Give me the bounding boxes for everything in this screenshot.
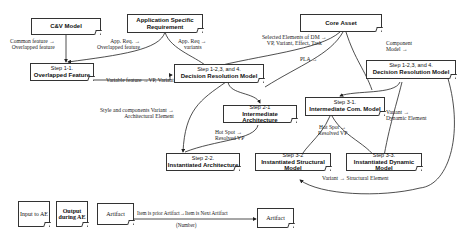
label-app-req-variants: App. Req → variants [178,38,206,50]
legend-edge-number: (Number) [176,223,196,229]
step-3-3-title: Instantiated Dynamic Model [347,159,421,172]
step-2-2-title: Instantiated Architecture [168,162,238,168]
label-line: Resolved VP [215,135,244,141]
label-component-model: Component Model → [386,40,412,52]
label-line: Model → [386,46,412,52]
legend-edge-label: Item is prior Artifact→Item is Next Arti… [137,210,228,216]
label-line: Variant → Structural Element [322,175,389,181]
legend-artifact-right-label: Artifact [266,215,285,221]
label-line: Overlapped feature [10,44,55,50]
dr-right-title: Decision Resolution Model [373,69,450,75]
label-selected-elements: Selected Elements of DM → VP, Variant, E… [262,34,327,46]
step-3-3-node: Step 3-3. Instantiated Dynamic Model [346,153,422,171]
legend-input-box: Input to AE [18,201,50,227]
legend-output-label-2: during AE [59,214,86,220]
legend-artifact-right: Artifact [257,208,294,228]
dr-left-title: Decision Resolution Model [181,73,258,79]
step-3-1-node: Step 3-1. Intermediate Com. Model [305,97,385,116]
label-line: Overlapped feature [97,44,140,50]
app-req-node: Application Specific Requirement [127,14,203,33]
cv-model-node: C&V Model [31,18,101,35]
legend-artifact-left: Artifact [97,203,134,225]
core-asset-label: Core Asset [325,20,356,26]
step-3-1-title: Intermediate Com. Model [309,106,380,112]
label-line: VP, Variant, Effect, Task [262,40,327,46]
step-2-1-node: Step 2-1 Intermediate Architecture [223,105,297,123]
label-style-components: Style and components Variant → Architect… [100,107,174,119]
label-line: PLA → [300,56,317,62]
label-line: Resolved VP [318,130,347,136]
step-3-2-title: Instantiated Structural Model [256,159,330,172]
cv-model-label: C&V Model [50,23,82,29]
app-req-label-2: Requirement [147,24,184,30]
decision-resolution-right-node: Step 1-2,3, and 4. Decision Resolution M… [366,60,456,79]
legend-input-label: Input to AE [20,211,48,217]
core-asset-node: Core Asset [300,14,382,32]
label-variant-dynamic: Variant → Dynamic Element [386,109,427,121]
legend-number-label: (Number) [176,222,196,228]
step-2-2-node: Step 2-2. Instantiated Architecture [166,153,240,171]
label-hot-spot-left: Hot Spot → Resolved VP [215,129,244,141]
legend-artifact-left-label: Artifact [106,211,125,217]
legend-output-box: Output during AE [56,201,88,227]
step-3-2-node: Step 3-2 Instantiated Structural Model [255,153,331,171]
decision-resolution-left-node: Step 1-2,3, and 4. Decision Resolution M… [174,64,264,83]
step-1-1-title: Overlapped Feature [34,72,90,78]
label-hot-spot-right: Hot Spot → Resolved VP [318,124,347,136]
label-common-feature: Common feature → Overlapped feature [10,38,55,50]
label-app-req-overlapped: App. Req. → Overlapped feature [97,38,140,50]
label-variable-feature: Variable feature →VP, Variant [106,77,174,83]
legend-edge-text: Item is prior Artifact→Item is Next Arti… [137,211,228,217]
label-line: variants [178,44,206,50]
label-line: Variable feature →VP, Variant [106,77,174,83]
step-2-1-title: Intermediate Architecture [224,111,296,124]
label-variant-structural: Variant → Structural Element [322,175,389,181]
label-line: Architectural Element [100,113,174,119]
ae-process-diagram: C&V Model Application Specific Requireme… [0,0,460,239]
label-pla: PLA → [300,56,317,62]
label-line: Dynamic Element [386,115,427,121]
step-1-1-node: Step 1-1. Overlapped Feature [30,63,94,81]
